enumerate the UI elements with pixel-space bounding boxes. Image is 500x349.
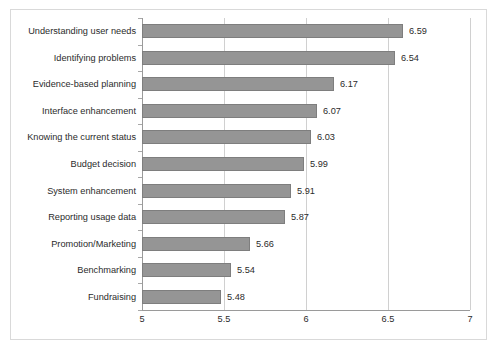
data-label: 6.07 bbox=[323, 106, 341, 116]
category-label: Budget decision bbox=[71, 159, 136, 169]
tick-mark bbox=[138, 204, 142, 205]
bar bbox=[142, 77, 334, 91]
tick-mark bbox=[138, 283, 142, 284]
category-label: Evidence-based planning bbox=[33, 79, 136, 89]
category-label: Reporting usage data bbox=[48, 212, 136, 222]
data-label: 5.91 bbox=[297, 186, 315, 196]
x-tick-label: 6 bbox=[303, 314, 308, 324]
tick-mark bbox=[138, 177, 142, 178]
tick-mark bbox=[138, 310, 142, 311]
category-label: Understanding user needs bbox=[28, 26, 136, 36]
gridline-7 bbox=[470, 18, 471, 310]
tick-mark bbox=[138, 98, 142, 99]
category-label: Fundraising bbox=[88, 292, 136, 302]
data-label: 6.17 bbox=[340, 79, 358, 89]
tick-mark bbox=[138, 71, 142, 72]
bar bbox=[142, 157, 304, 171]
bar bbox=[142, 237, 250, 251]
x-axis-line bbox=[142, 310, 470, 311]
data-label: 5.48 bbox=[227, 292, 245, 302]
data-label: 6.59 bbox=[409, 26, 427, 36]
x-tick-label: 6.5 bbox=[382, 314, 395, 324]
bar bbox=[142, 263, 231, 277]
bar bbox=[142, 24, 403, 38]
x-tick-label: 5 bbox=[139, 314, 144, 324]
category-label: Knowing the current status bbox=[27, 132, 136, 142]
tick-mark bbox=[138, 18, 142, 19]
tick-mark bbox=[138, 230, 142, 231]
bar bbox=[142, 210, 285, 224]
category-label: Benchmarking bbox=[77, 265, 136, 275]
plot-area: 6.596.546.176.076.035.995.915.875.665.54… bbox=[142, 18, 470, 310]
data-label: 5.99 bbox=[310, 159, 328, 169]
bar bbox=[142, 130, 311, 144]
category-label: Promotion/Marketing bbox=[51, 239, 136, 249]
data-label: 6.54 bbox=[401, 53, 419, 63]
bar bbox=[142, 290, 221, 304]
bar bbox=[142, 184, 291, 198]
x-tick-label: 5.5 bbox=[218, 314, 231, 324]
chart-figure: Understanding user needsIdentifying prob… bbox=[0, 0, 500, 349]
data-label: 5.87 bbox=[291, 212, 309, 222]
x-axis-tick-labels: 55.566.57 bbox=[142, 314, 470, 328]
category-axis-labels: Understanding user needsIdentifying prob… bbox=[0, 18, 136, 310]
x-tick-label: 7 bbox=[467, 314, 472, 324]
tick-mark bbox=[138, 45, 142, 46]
category-label: System enhancement bbox=[47, 186, 136, 196]
tick-mark bbox=[138, 257, 142, 258]
tick-mark bbox=[138, 124, 142, 125]
category-label: Identifying problems bbox=[54, 53, 136, 63]
data-label: 6.03 bbox=[317, 132, 335, 142]
data-label: 5.66 bbox=[256, 239, 274, 249]
category-label: Interface enhancement bbox=[42, 106, 136, 116]
data-label: 5.54 bbox=[237, 265, 255, 275]
bar bbox=[142, 51, 395, 65]
bar bbox=[142, 104, 317, 118]
tick-mark bbox=[138, 151, 142, 152]
